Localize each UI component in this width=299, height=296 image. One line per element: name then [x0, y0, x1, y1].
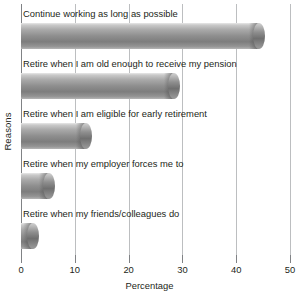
bar-end-cap: [80, 123, 92, 149]
bar-end-cap: [168, 73, 180, 99]
bar-end-cap: [27, 223, 39, 249]
x-tick-50: [290, 255, 291, 263]
bar: [21, 173, 49, 199]
bar-category-label: Retire when my employer forces me to: [23, 158, 183, 170]
y-axis-title: Reasons: [0, 0, 14, 262]
x-tick-20: [129, 255, 130, 263]
bar-category-label: Retire when my friends/colleagues do: [23, 208, 179, 220]
x-tick-label-30: 30: [177, 264, 187, 275]
x-tick-label-0: 0: [18, 264, 23, 275]
bar: [21, 73, 174, 99]
x-tick-label-50: 50: [285, 264, 295, 275]
x-tick-10: [75, 255, 76, 263]
bar-row: Retire when I am old enough to receive m…: [21, 58, 290, 102]
x-tick-label-10: 10: [70, 264, 80, 275]
plot-area: Continue working as long as possibleReti…: [21, 4, 290, 262]
bar: [21, 23, 259, 49]
bar: [21, 223, 33, 249]
y-axis-title-text: Reasons: [2, 112, 13, 150]
bar-end-cap: [253, 23, 265, 49]
bar-chart: Reasons Continue working as long as poss…: [0, 0, 299, 296]
bar-end-cap: [43, 173, 55, 199]
bar: [21, 123, 86, 149]
x-tick-30: [182, 255, 183, 263]
bar-row: Retire when I am eligible for early reti…: [21, 108, 290, 152]
x-axis-title: Percentage: [0, 280, 299, 291]
gridline-50: [290, 4, 291, 262]
bar-row: Continue working as long as possible: [21, 8, 290, 52]
bar-category-label: Retire when I am eligible for early reti…: [23, 108, 207, 120]
bar-category-label: Continue working as long as possible: [23, 8, 178, 20]
bar-row: Retire when my employer forces me to: [21, 158, 290, 202]
x-tick-40: [236, 255, 237, 263]
x-tick-0: [21, 255, 22, 263]
x-tick-label-40: 40: [231, 264, 241, 275]
x-tick-label-20: 20: [123, 264, 133, 275]
bar-row: Retire when my friends/colleagues do: [21, 208, 290, 252]
bar-category-label: Retire when I am old enough to receive m…: [23, 58, 237, 70]
